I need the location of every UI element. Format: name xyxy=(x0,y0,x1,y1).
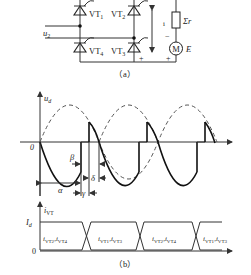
vt3-label: VT3 xyxy=(111,46,125,57)
id-level-label: Id xyxy=(25,217,33,228)
ivt-axis-label: iVT xyxy=(44,206,54,216)
inverter-diagram: VT1 VT2 VT4 VT3 u2 i Σr M E − + + （a） ud… xyxy=(0,0,251,275)
voltage-waveform: ud 0 β δ xyxy=(20,92,232,198)
u2-label: u2 xyxy=(43,28,50,39)
segment-1-label: iVT2,iVT4 xyxy=(43,235,67,244)
current-trace-b xyxy=(40,222,222,250)
segment-2-label: iVT1,iVT3 xyxy=(98,235,122,244)
delta-label: δ xyxy=(91,173,96,183)
bridge-circuit: VT1 VT2 VT4 VT3 u2 i Σr M E − + + （a） xyxy=(43,0,192,79)
thyristor-vt2 xyxy=(128,1,148,15)
node-dot xyxy=(132,36,136,40)
resistor xyxy=(172,12,180,28)
ud-seg-4 xyxy=(205,122,215,143)
plus-sign-bridge: + xyxy=(139,54,144,63)
caption-b: （b） xyxy=(114,259,136,269)
vt1-label: VT1 xyxy=(89,9,103,20)
current-trace-a xyxy=(40,222,222,250)
node-dot xyxy=(78,24,82,28)
plus-sign-motor: + xyxy=(166,54,171,63)
origin-label: 0 xyxy=(30,143,34,152)
current-i-label: i xyxy=(163,20,165,28)
segment-4-label: iVT1,iVT3 xyxy=(203,235,227,244)
thyristor-vt3 xyxy=(128,38,148,52)
motor-symbol: M xyxy=(172,44,180,54)
caption-a: （a） xyxy=(114,69,136,79)
alpha-label: α xyxy=(58,185,63,195)
zero-label: 0 xyxy=(32,247,36,256)
current-waveform: iVT Id 0 iVT2,iVT4 iVT1,iVT3 iVT2,iVT4 i… xyxy=(25,202,232,269)
vt4-label: VT4 xyxy=(89,46,103,57)
ud-seg-3 xyxy=(147,122,197,186)
ud-seg-2 xyxy=(89,122,139,186)
vt2-label: VT2 xyxy=(111,9,125,20)
beta-label: β xyxy=(69,152,75,162)
minus-sign: − xyxy=(165,32,170,41)
resistor-label: Σr xyxy=(182,16,192,26)
gamma-label: γ xyxy=(82,189,86,198)
segment-3-label: iVT2,iVT4 xyxy=(152,235,176,244)
ud-axis-label: ud xyxy=(44,93,52,104)
motor-emf-label: E xyxy=(185,44,192,54)
